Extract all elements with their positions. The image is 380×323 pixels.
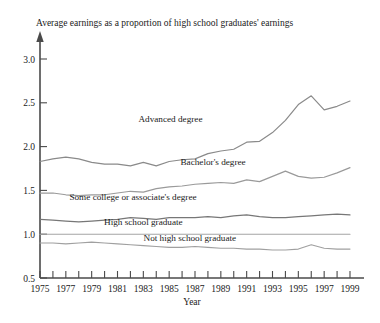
x-axis-label: Year [183, 297, 201, 307]
x-tick-label: 1997 [315, 284, 334, 294]
series-label: Some college or associate's degree [69, 192, 196, 202]
x-tick-label: 1975 [31, 284, 50, 294]
x-tick-label: 1999 [341, 284, 360, 294]
series-label: Bachelor's degree [180, 157, 245, 167]
x-tick-label: 1993 [263, 284, 282, 294]
x-tick-label: 1981 [108, 284, 127, 294]
y-tick-label: 1.5 [23, 186, 35, 196]
y-tick-label: 3.0 [23, 55, 35, 65]
series-line [40, 214, 350, 222]
x-tick-label: 1979 [82, 284, 101, 294]
chart-canvas: Average earnings as a proportion of high… [0, 0, 380, 323]
earnings-line-chart: Average earnings as a proportion of high… [0, 0, 380, 323]
y-tick-label: 0.5 [23, 274, 35, 284]
x-tick-label: 1983 [134, 284, 153, 294]
y-axis [36, 31, 43, 278]
y-tick-label: 2.5 [23, 98, 35, 108]
series-line [40, 96, 350, 166]
x-tick-label: 1989 [211, 284, 230, 294]
y-axis-ticks: 0.51.01.52.02.53.0 [23, 55, 47, 284]
y-tick-label: 1.0 [23, 230, 35, 240]
x-tick-label: 1991 [237, 284, 256, 294]
x-tick-label: 1977 [56, 284, 75, 294]
series-labels: Advanced degreeBachelor's degreeSome col… [69, 114, 245, 243]
x-tick-label: 1985 [160, 284, 179, 294]
x-tick-label: 1995 [289, 284, 308, 294]
y-axis-arrow-icon [36, 31, 43, 42]
series-line [40, 242, 350, 250]
series-label: Not high school graduate [144, 233, 237, 243]
series-label: High school graduate [104, 217, 183, 227]
y-tick-label: 2.0 [23, 142, 35, 152]
x-axis-ticks: 1975197719791981198319851987198919911993… [31, 271, 360, 294]
series-label: Advanced degree [138, 114, 202, 124]
chart-title: Average earnings as a proportion of high… [36, 18, 293, 28]
x-tick-label: 1987 [186, 284, 205, 294]
